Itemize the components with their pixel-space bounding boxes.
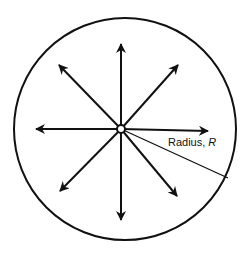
arrow-right	[121, 129, 208, 131]
radius-symbol: R	[208, 136, 216, 148]
arrow-up-right	[121, 65, 178, 129]
radius-label-text: Radius,	[168, 136, 208, 148]
arrow-up-left	[59, 65, 121, 129]
radius-label: Radius, R	[168, 136, 216, 148]
radial-diagram	[0, 0, 248, 255]
center-point	[117, 125, 125, 133]
arrow-down-left	[60, 129, 121, 191]
